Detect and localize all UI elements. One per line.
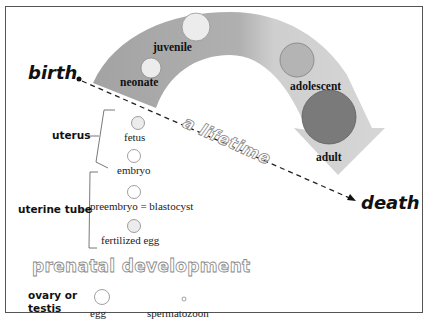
birth-label: birth bbox=[28, 62, 77, 83]
spermatozoon-label: spermatozoon bbox=[147, 307, 209, 319]
adolescent-label: adolescent bbox=[290, 80, 341, 92]
adult-circle bbox=[302, 90, 356, 144]
spermatozoon-circle bbox=[182, 297, 186, 301]
embryo-circle bbox=[128, 150, 141, 163]
fetus-circle bbox=[132, 117, 145, 130]
uterus-label: uterus bbox=[52, 129, 91, 141]
fertilized-egg-circle bbox=[128, 220, 141, 233]
blastocyst-circle bbox=[128, 186, 141, 199]
fetus-label: fetus bbox=[124, 131, 145, 143]
death-arrowhead bbox=[347, 194, 356, 201]
egg-circle bbox=[95, 290, 110, 305]
adolescent-circle bbox=[280, 43, 314, 77]
blastocyst-label: preembryo = blastocyst bbox=[90, 200, 193, 212]
uterine-tube-label: uterine tube bbox=[18, 203, 92, 215]
death-label: death bbox=[361, 192, 420, 213]
juvenile-label: juvenile bbox=[153, 41, 192, 53]
diagram-graphics bbox=[0, 0, 429, 328]
uterus-bracket bbox=[96, 110, 115, 168]
ovary-testis-label: ovary or testis bbox=[28, 289, 78, 315]
juvenile-circle bbox=[182, 13, 210, 41]
egg-label: egg bbox=[90, 307, 106, 319]
neonate-label: neonate bbox=[120, 76, 158, 88]
embryo-label: embryo bbox=[117, 164, 151, 176]
neonate-circle bbox=[141, 58, 161, 78]
fertilized-egg-label: fertilized egg bbox=[101, 234, 159, 246]
adult-label: adult bbox=[316, 151, 342, 163]
prenatal-development-title: prenatal development bbox=[32, 256, 250, 276]
